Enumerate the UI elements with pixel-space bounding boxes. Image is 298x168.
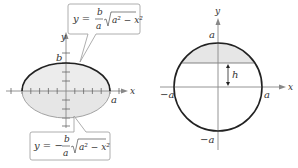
upper-eq-lhs: y = (72, 13, 90, 24)
label-right-a: a (264, 89, 270, 100)
upper-eq-radicand: a² − x² (112, 15, 143, 25)
lower-eq-den: a (63, 148, 68, 158)
x-axis-label: x (130, 86, 135, 96)
y-axis-label: y (60, 32, 67, 42)
label-a: a (111, 94, 117, 105)
upper-eq-num: b (97, 7, 103, 17)
x-axis-label: x (288, 82, 293, 92)
lower-eq-radicand: a² − x² (79, 142, 110, 152)
upper-eq-den: a (96, 21, 101, 31)
label-h: h (232, 69, 238, 80)
circle-figure: y x a a −a −a h (160, 6, 293, 150)
y-axis-label: y (214, 6, 221, 16)
h-arrow-up-icon (226, 64, 230, 68)
lower-eq-lhs: y = − (33, 140, 63, 151)
x-axis-arrow-icon (121, 89, 128, 94)
lower-equation-callout: y = − b a a² − x² (30, 116, 110, 160)
label-left-neg-a: −a (160, 89, 174, 100)
x-axis-arrow-icon (279, 85, 286, 90)
label-bottom-neg-a: −a (200, 134, 214, 145)
ellipse-figure: y x b a y = b a a² − x² y = − b a a² − x… (6, 4, 143, 160)
upper-equation-callout: y = b a a² − x² (68, 4, 143, 62)
label-b: b (56, 52, 62, 63)
diagram-canvas: y x b a y = b a a² − x² y = − b a a² − x… (0, 0, 298, 168)
label-top-a: a (209, 29, 215, 40)
y-axis-arrow-icon (216, 18, 221, 25)
h-arrow-down-icon (226, 82, 230, 86)
lower-eq-num: b (64, 134, 70, 144)
